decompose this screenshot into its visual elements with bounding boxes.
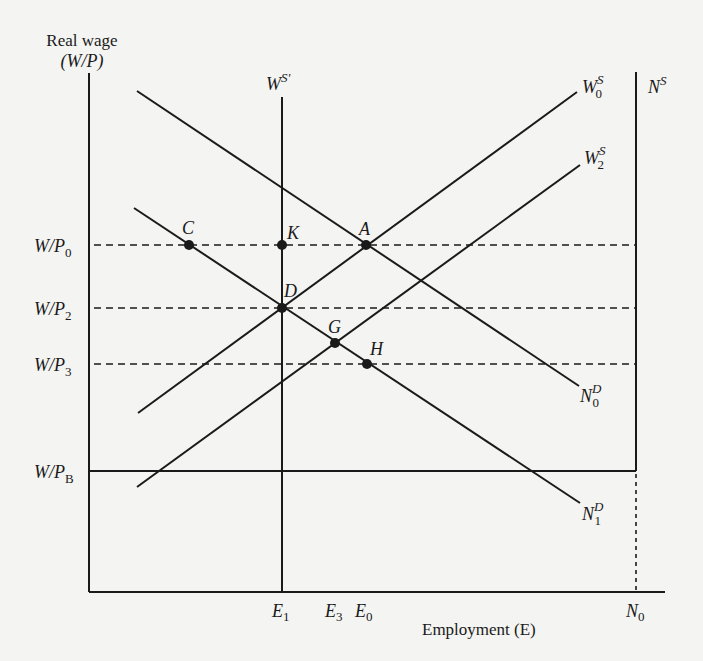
point-d bbox=[277, 303, 287, 313]
y-label-wp0: W/P0 bbox=[34, 236, 72, 260]
x-label-e1: E1 bbox=[271, 601, 290, 624]
y-axis-title: Real wage bbox=[46, 31, 117, 50]
curve-nd0 bbox=[137, 91, 579, 386]
y-label-wp2: W/P2 bbox=[34, 299, 72, 323]
labor-market-diagram: Real wage (W/P) C K A D G H W/P0 W/P2 W/… bbox=[0, 0, 703, 661]
point-h bbox=[362, 359, 372, 369]
y-label-wpb: W/PB bbox=[34, 462, 74, 486]
x-label-e3: E3 bbox=[324, 601, 343, 624]
curve-label-nd0: ND0 bbox=[579, 381, 602, 410]
y-label-wp3: W/P3 bbox=[34, 355, 72, 379]
curve-label-ws2: WS2 bbox=[584, 143, 606, 172]
point-a bbox=[361, 240, 371, 250]
point-label-h: H bbox=[369, 339, 384, 359]
curve-ws2 bbox=[137, 165, 580, 487]
point-label-g: G bbox=[328, 317, 341, 337]
x-label-e0: E0 bbox=[354, 601, 373, 624]
point-k bbox=[277, 240, 287, 250]
curve-label-ws0: WS0 bbox=[582, 72, 604, 101]
x-axis-title: Employment (E) bbox=[422, 620, 536, 639]
point-label-a: A bbox=[358, 219, 371, 239]
curve-ws0 bbox=[138, 92, 577, 413]
curve-label-nd1: ND1 bbox=[581, 499, 604, 528]
point-g bbox=[330, 338, 340, 348]
y-axis-title-unit: (W/P) bbox=[61, 51, 104, 72]
curve-label-ws-prime: WS' bbox=[266, 70, 291, 94]
point-label-c: C bbox=[182, 218, 195, 238]
point-c bbox=[184, 240, 194, 250]
curve-label-ns: NS bbox=[647, 73, 667, 97]
x-label-n0: N0 bbox=[625, 601, 645, 624]
point-label-k: K bbox=[286, 223, 300, 243]
point-label-d: D bbox=[283, 281, 297, 301]
